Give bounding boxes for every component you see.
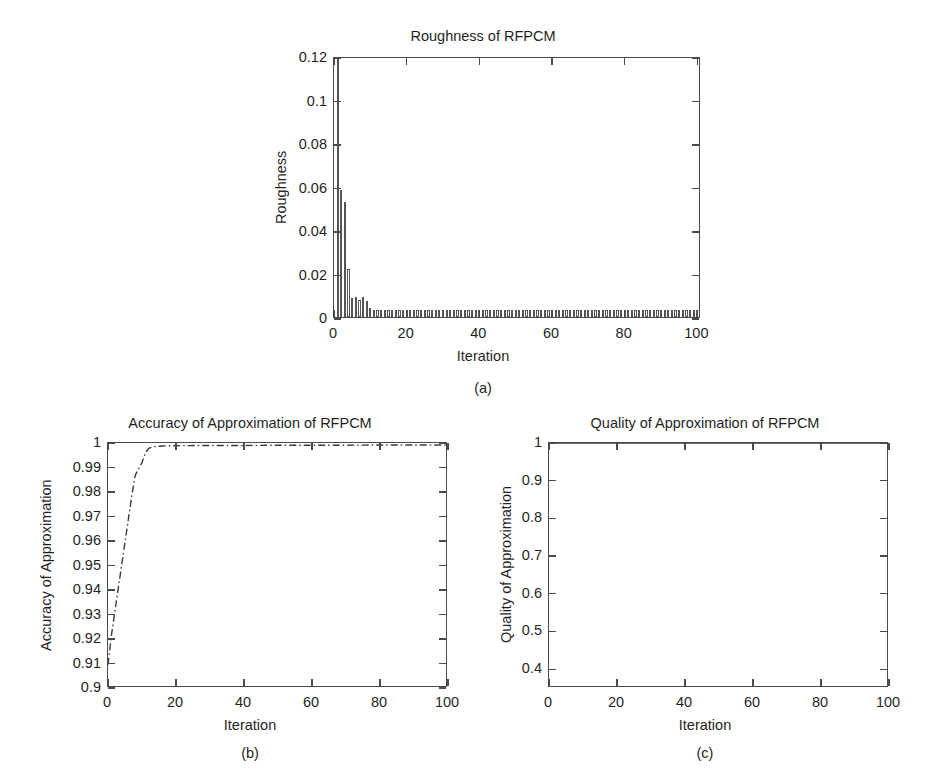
- roughness-bar: [645, 310, 647, 317]
- roughness-bar: [467, 310, 469, 317]
- panel-c-axes: [548, 442, 888, 687]
- panel-a-xtick-top: [624, 58, 625, 65]
- roughness-bar: [562, 310, 564, 317]
- panel-c-xtick-label: 20: [608, 694, 624, 710]
- panel-c-ytick-label: 0.4: [484, 660, 542, 676]
- panel-b-ytick: [108, 565, 115, 566]
- panel-b-ytick-label: 0.94: [43, 581, 101, 597]
- roughness-bar: [555, 310, 557, 317]
- panel-a-ytick-label: 0.1: [269, 93, 327, 109]
- panel-a-xtick-top: [479, 58, 480, 65]
- panel-a-ytick-label: 0.04: [269, 223, 327, 239]
- panel-b-xtick-label: 20: [167, 694, 183, 710]
- panel-c-plot-area: [549, 443, 887, 686]
- panel-b-xtick: [107, 679, 108, 686]
- panel-b-ytick-right: [439, 589, 446, 590]
- roughness-bar: [685, 310, 687, 317]
- panel-a-axes: [333, 57, 700, 318]
- panel-a-ytick-right: [692, 188, 699, 189]
- panel-b-ytick-right: [439, 516, 446, 517]
- roughness-bar: [395, 310, 397, 317]
- panel-b-xtick: [311, 679, 312, 686]
- panel-a-xtick-top: [333, 58, 334, 65]
- panel-a-xtick-label: 40: [470, 325, 486, 341]
- roughness-bar: [591, 310, 593, 317]
- panel-c-ytick-label: 0.8: [484, 509, 542, 525]
- roughness-bar: [573, 310, 575, 317]
- roughness-bar: [453, 310, 455, 317]
- panel-b-ytick: [108, 540, 115, 541]
- panel-a-xtick: [406, 310, 407, 317]
- roughness-bar: [689, 310, 691, 317]
- panel-c-xtick: [548, 679, 549, 686]
- panel-b-ytick-label: 0.96: [43, 532, 101, 548]
- panel-b-ytick-label: 1: [43, 434, 101, 450]
- panel-b-xtick-top: [447, 443, 448, 450]
- panel-c-ytick-right: [880, 442, 887, 443]
- panel-c-ytick-right: [880, 669, 887, 670]
- roughness-bar: [369, 308, 371, 317]
- roughness-bar: [391, 310, 393, 317]
- panel-a-ytick-right: [692, 275, 699, 276]
- panel-a-ytick: [334, 318, 341, 319]
- roughness-bar: [387, 310, 389, 317]
- panel-a-xtick-top: [406, 58, 407, 65]
- panel-a-title: Roughness of RFPCM: [233, 28, 733, 44]
- roughness-bar: [565, 310, 567, 317]
- roughness-bar: [642, 310, 644, 317]
- roughness-bar: [667, 310, 669, 317]
- panel-c-xtick-label: 40: [676, 694, 692, 710]
- panel-c-ytick: [549, 555, 556, 556]
- panel-b-caption: (b): [20, 745, 480, 761]
- panel-b-ytick: [108, 589, 115, 590]
- panel-a-ytick-label: 0.08: [269, 136, 327, 152]
- panel-b-title: Accuracy of Approximation of RFPCM: [20, 415, 480, 431]
- panel-a-xtick-label: 80: [616, 325, 632, 341]
- roughness-bar: [485, 310, 487, 317]
- panel-a-xtick: [479, 310, 480, 317]
- panel-a-xtick-label: 60: [543, 325, 559, 341]
- roughness-bar: [613, 310, 615, 317]
- roughness-bar: [558, 310, 560, 317]
- roughness-bar: [420, 310, 422, 317]
- roughness-bar: [449, 310, 451, 317]
- roughness-bar: [435, 310, 437, 317]
- panel-b-xtick-label: 40: [235, 694, 251, 710]
- panel-c-xtick: [820, 679, 821, 686]
- roughness-bar: [569, 310, 571, 317]
- panel-c-ytick-label: 1: [484, 434, 542, 450]
- panel-b-ytick: [108, 442, 115, 443]
- panel-b-xtick-top: [379, 443, 380, 450]
- panel-a-xtick-top: [697, 58, 698, 65]
- panel-b-ytick: [108, 638, 115, 639]
- panel-c-ytick: [549, 669, 556, 670]
- panel-c-ytick: [549, 442, 556, 443]
- roughness-bar: [671, 310, 673, 317]
- roughness-bar: [373, 310, 375, 317]
- panel-b-xtick-top: [311, 443, 312, 450]
- roughness-bar: [529, 310, 531, 317]
- panel-a-ytick: [334, 57, 341, 58]
- panel-a-ytick-label: 0.12: [269, 49, 327, 65]
- roughness-bar: [504, 310, 506, 317]
- roughness-bar: [634, 310, 636, 317]
- roughness-bar: [351, 298, 353, 317]
- roughness-bar: [402, 310, 404, 317]
- roughness-bar: [344, 202, 346, 317]
- panel-c-xtick: [684, 679, 685, 686]
- roughness-bar: [580, 310, 582, 317]
- panel-c-xtick: [752, 679, 753, 686]
- panel-a-ytick-right: [692, 144, 699, 145]
- roughness-bar: [464, 310, 466, 317]
- panel-b-xtick-label: 100: [435, 694, 459, 710]
- panel-c-line-svg: [549, 443, 887, 686]
- panel-a-ytick: [334, 231, 341, 232]
- roughness-bar: [656, 310, 658, 317]
- panel-b-ytick-label: 0.92: [43, 630, 101, 646]
- panel-b-plot-area: [108, 443, 446, 686]
- panel-b-axes: [107, 442, 447, 687]
- roughness-bar: [438, 310, 440, 317]
- panel-b-ytick-right: [439, 491, 446, 492]
- panel-a: Roughness of RFPCM Iteration (a) Roughne…: [233, 28, 733, 388]
- roughness-bar: [576, 310, 578, 317]
